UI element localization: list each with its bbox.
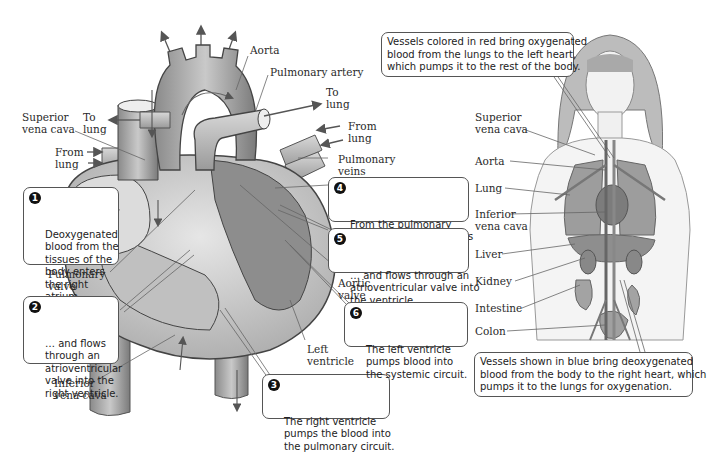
step-text: … and flows through an atrioventricular … <box>45 338 113 401</box>
label-to-lung-left: To lung <box>83 111 107 135</box>
label-to-lung-right: To lung <box>326 86 350 110</box>
label-from-lung-right: From lung <box>348 120 377 144</box>
body-label-intestine: Intestine <box>475 302 522 314</box>
step-2-callout: 2 … and flows through an atrioventricula… <box>23 296 119 364</box>
label-pulmonary-veins: Pulmonary veins <box>338 153 395 177</box>
label-left-ventricle: Left ventricle <box>307 343 354 367</box>
body-figure <box>530 35 690 340</box>
body-label-colon: Colon <box>475 325 506 337</box>
step-number-badge: 6 <box>350 307 362 319</box>
step-text: Deoxygenated blood from the tissues of t… <box>45 229 113 304</box>
label-from-lung-left: From lung <box>55 146 84 170</box>
blue-vessels-note: Vessels shown in blue bring deoxygenated… <box>474 352 693 397</box>
step-number-badge: 3 <box>268 379 280 391</box>
step-number-badge: 1 <box>29 192 41 204</box>
label-pulmonary-artery: Pulmonary artery <box>270 66 363 78</box>
step-text: The left ventricle pumps blood into the … <box>366 344 462 382</box>
step-5-callout: 5 … and flows through an atrioventricula… <box>328 228 469 273</box>
label-superior-vena-cava: Superior vena cava <box>22 111 75 135</box>
step-number-badge: 5 <box>334 233 346 245</box>
body-label-inferior-vena-cava: Inferior vena cava <box>475 208 528 232</box>
step-1-callout: 1 Deoxygenated blood from the tissues of… <box>23 187 119 265</box>
red-vessels-note: Vessels colored in red bring oxygenated … <box>381 32 574 77</box>
body-label-aorta: Aorta <box>475 155 504 167</box>
label-aorta: Aorta <box>250 44 279 56</box>
body-label-liver: Liver <box>475 248 503 260</box>
step-number-badge: 2 <box>29 301 41 313</box>
step-text: The right ventricle pumps the blood into… <box>284 416 384 454</box>
body-label-kidney: Kidney <box>475 275 512 287</box>
body-label-superior-vena-cava: Superior vena cava <box>475 111 528 135</box>
step-number-badge: 4 <box>334 182 346 194</box>
body-label-lung: Lung <box>475 182 502 194</box>
step-4-callout: 4 From the pulmonary circuit, the blood … <box>328 177 469 222</box>
step-6-callout: 6 The left ventricle pumps blood into th… <box>344 302 468 347</box>
